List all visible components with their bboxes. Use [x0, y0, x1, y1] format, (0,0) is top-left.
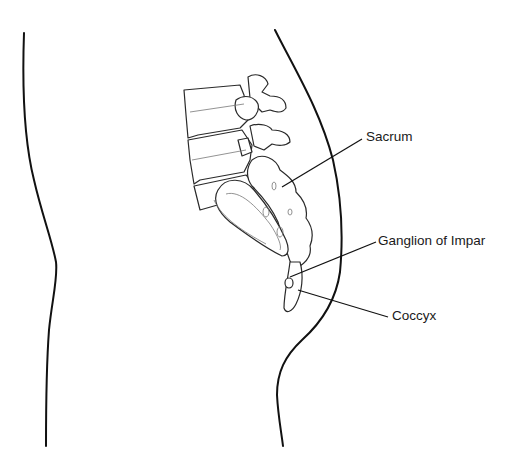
leader-coccyx — [298, 290, 388, 317]
coccyx-bone — [284, 262, 302, 311]
anatomy-artwork — [0, 0, 521, 451]
ganglion-impar-marker — [285, 278, 293, 288]
body-outline-left — [23, 33, 56, 446]
label-sacrum: Sacrum — [366, 130, 413, 144]
anatomy-diagram: Sacrum Ganglion of Impar Coccyx — [0, 0, 521, 451]
leader-sacrum — [282, 139, 362, 187]
label-ganglion-of-impar: Ganglion of Impar — [378, 234, 485, 248]
label-coccyx: Coccyx — [392, 309, 436, 323]
